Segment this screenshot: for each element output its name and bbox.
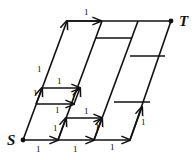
edge-weight-label: 1 (73, 144, 78, 154)
weighted-arrow-edge (58, 118, 66, 140)
edge-weight-label: 1 (55, 105, 60, 115)
source-node-dot (21, 138, 26, 143)
edge-weight-label: 1 (71, 92, 76, 102)
arrow-edges (23, 21, 142, 140)
edge-weight-label: 1 (33, 88, 38, 98)
edge-labels: 1111111111111 (33, 7, 146, 154)
edge-weight-label: 1 (53, 123, 58, 133)
edge-weight-label: 1 (84, 106, 89, 116)
plain-edges (58, 21, 171, 140)
edge-weight-label: 1 (95, 122, 100, 132)
target-node-dot (169, 19, 174, 24)
edge-weight-label: 1 (57, 76, 62, 86)
target-node-label: T (179, 13, 189, 29)
edge-weight-label: 1 (84, 7, 89, 17)
lattice-path-diagram: 1111111111111 S T (0, 0, 194, 160)
edge-weight-label: 1 (141, 117, 146, 127)
edge-weight-label: 1 (110, 142, 115, 152)
edge-weight-label: 1 (36, 144, 41, 154)
source-node-label: S (7, 132, 15, 148)
edge-weight-label: 1 (37, 64, 42, 74)
